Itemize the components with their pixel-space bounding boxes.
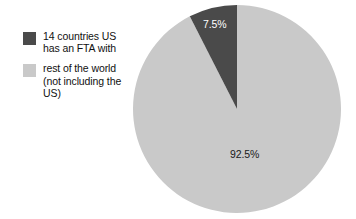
pie-slice-label-fta-countries: 7.5% — [203, 18, 227, 30]
pie-slice-label-rest-of-world: 92.5% — [230, 148, 259, 160]
pie-chart-figure: 14 countries US has an FTA with rest of … — [0, 0, 356, 219]
pie-graphic: 7.5% 92.5% — [133, 5, 341, 213]
chart-legend: 14 countries US has an FTA with rest of … — [23, 30, 135, 107]
pie-slice-rest-of-world — [133, 5, 341, 213]
legend-item-label: rest of the world (not including the US) — [43, 62, 121, 99]
pie-svg — [133, 5, 341, 213]
legend-item-label: 14 countries US has an FTA with — [43, 30, 116, 54]
legend-swatch-dark-icon — [23, 32, 36, 45]
legend-swatch-light-icon — [23, 64, 36, 77]
legend-item-rest-of-world: rest of the world (not including the US) — [23, 62, 135, 99]
legend-item-fta-countries: 14 countries US has an FTA with — [23, 30, 135, 54]
